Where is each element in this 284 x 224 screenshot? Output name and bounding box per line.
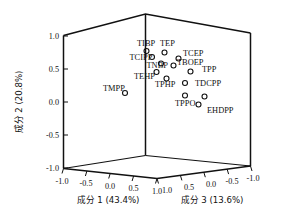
y-tick-label-2: 0.0 xyxy=(49,98,59,107)
y-axis-ticks: 1.0 0.5 0.0 -0.5 -1.0 xyxy=(46,32,68,173)
data-point-label: TDCPP xyxy=(195,79,221,88)
frame-floor-back-right xyxy=(146,156,251,167)
data-point-marker[interactable] xyxy=(188,69,193,74)
data-point-marker[interactable] xyxy=(171,63,176,68)
plot-area: 1.0 0.5 0.0 -0.5 -1.0 -1.0 -0.5 0.0 0.5 … xyxy=(0,0,284,224)
frame-floor-front-left-xaxis xyxy=(64,169,158,179)
y-tick-label-0: 1.0 xyxy=(49,32,59,41)
z-tick-2 xyxy=(180,175,182,180)
x-tick-label-1: -0.5 xyxy=(80,179,93,188)
z-tick-label-1: 0.5 xyxy=(184,183,194,192)
data-point-label: TBOEP xyxy=(177,58,204,67)
data-point-marker[interactable] xyxy=(196,102,201,107)
data-point-label: TPHP xyxy=(155,80,176,89)
z-tick-3 xyxy=(204,172,206,177)
x-tick-label-2: 0.0 xyxy=(105,182,115,191)
data-point-label: TIBP xyxy=(137,39,155,48)
data-point-label: TNBP xyxy=(147,61,169,70)
z-tick-label-3: -0.5 xyxy=(226,177,239,186)
data-point-marker[interactable] xyxy=(183,81,188,86)
data-point-label: TPPO xyxy=(175,99,195,108)
z-tick-label-4: -1.0 xyxy=(247,174,260,183)
x-axis-ticks: -1.0 -0.5 0.0 0.5 1.0 xyxy=(56,169,163,196)
z-tick-1 xyxy=(157,179,159,184)
frame-floor-back-left xyxy=(64,156,146,169)
y-tick-label-1: 0.5 xyxy=(49,65,59,74)
y-tick-label-3: -0.5 xyxy=(46,131,59,140)
data-point-label: TEP xyxy=(160,39,175,48)
data-point-label: TPP xyxy=(202,65,217,74)
x-tick-label-3: 0.5 xyxy=(128,184,138,193)
y-axis-title: 成分 2 (20.8%) xyxy=(13,71,24,134)
x-tick-label-4: 1.0 xyxy=(152,187,162,196)
x-axis-title: 成分 1 (43.4%) xyxy=(77,194,140,205)
x-tick-4 xyxy=(132,176,134,181)
data-point-label: TMPP xyxy=(103,84,125,93)
z-tick-label-0: 1.0 xyxy=(162,186,172,195)
data-point-marker[interactable] xyxy=(183,93,188,98)
chart-frame xyxy=(64,14,251,179)
x-tick-1 xyxy=(62,169,64,174)
data-point-marker[interactable] xyxy=(162,50,167,55)
z-tick-4 xyxy=(227,169,229,174)
frame-top-back-edges xyxy=(64,14,251,36)
pca-3d-scatter-chart: 1.0 0.5 0.0 -0.5 -1.0 -1.0 -0.5 0.0 0.5 … xyxy=(0,0,284,224)
x-tick-label-0: -1.0 xyxy=(56,177,69,186)
data-point-label: EHDPP xyxy=(207,106,234,115)
x-tick-2 xyxy=(85,171,87,176)
x-tick-3 xyxy=(109,174,111,179)
z-tick-label-2: 0.0 xyxy=(206,180,216,189)
y-tick-label-4: -1.0 xyxy=(46,164,59,173)
z-axis-ticks: 1.0 0.5 0.0 -0.5 -1.0 xyxy=(157,166,259,195)
data-point-label: TEHP xyxy=(134,72,155,81)
z-axis-title: 成分 3 (13.6%) xyxy=(181,194,244,205)
data-point-marker[interactable] xyxy=(202,94,207,99)
z-tick-5 xyxy=(251,166,253,171)
